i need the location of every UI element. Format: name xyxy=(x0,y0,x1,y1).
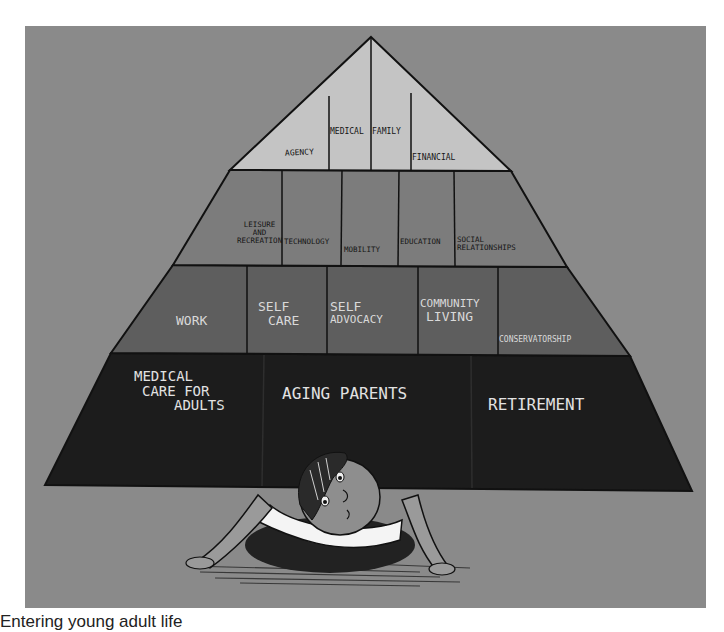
label-community-living: Community Living xyxy=(420,298,480,323)
label-line: Recreation xyxy=(237,237,282,245)
label-line: Self xyxy=(258,300,299,314)
label-line: Medical xyxy=(134,369,225,384)
label-medical-care-for-adults: Medical care for adults xyxy=(134,369,225,413)
label-family: Family xyxy=(372,128,401,136)
label-aging-parents: Aging Parents xyxy=(282,386,407,403)
label-leisure-and-recreation: Leisure and Recreation xyxy=(237,221,282,245)
label-work: Work xyxy=(176,314,207,328)
label-mobility: Mobility xyxy=(344,246,380,254)
label-agency: Agency xyxy=(285,148,314,158)
label-line: Community xyxy=(420,298,480,310)
label-line: Advocacy xyxy=(330,314,383,326)
label-technology: Technology xyxy=(284,238,329,246)
label-line: care for xyxy=(134,384,225,399)
label-line: Living xyxy=(420,310,480,324)
label-retirement: Retirement xyxy=(488,397,584,414)
label-line: Self xyxy=(330,300,383,314)
label-medical: Medical xyxy=(330,128,364,136)
label-line: adults xyxy=(134,398,225,413)
label-education: Education xyxy=(400,238,441,246)
label-self-care: Self Care xyxy=(258,300,299,327)
label-line: Relationships xyxy=(457,244,516,252)
label-line: Care xyxy=(258,314,299,328)
label-social-relationships: Social Relationships xyxy=(457,236,516,252)
figure-caption: Entering young adult life xyxy=(0,612,182,632)
label-financial: Financial xyxy=(412,154,455,162)
label-self-advocacy: Self Advocacy xyxy=(330,300,383,325)
label-conservatorship: Conservatorship xyxy=(499,336,571,344)
